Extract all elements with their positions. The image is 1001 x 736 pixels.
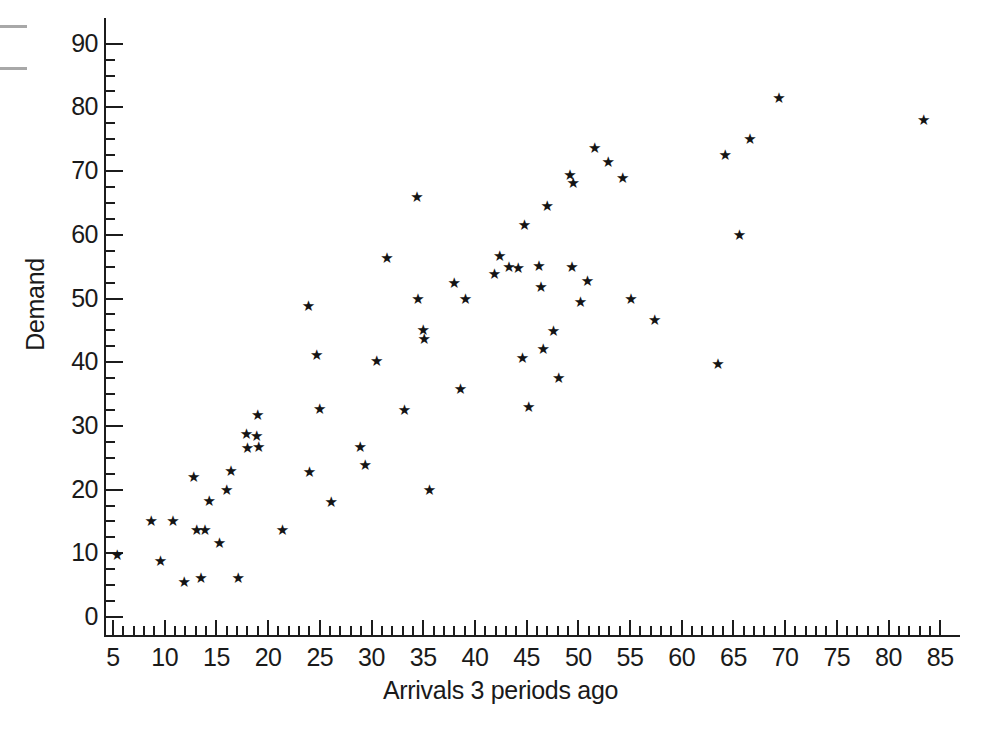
- x-axis-minor-tick: [246, 626, 248, 635]
- scatter-point: [397, 399, 413, 417]
- y-axis-minor-tick: [106, 473, 115, 475]
- scatter-point: [193, 567, 209, 585]
- x-axis-minor-tick: [308, 626, 310, 635]
- scatter-point: [565, 172, 581, 190]
- scatter-point: [521, 396, 537, 414]
- scatter-point: [572, 291, 588, 309]
- scatter-point: [710, 353, 726, 371]
- scatter-point: [369, 350, 385, 368]
- x-axis-minor-tick: [402, 626, 404, 635]
- x-axis-major-tick: [939, 620, 941, 635]
- x-axis-minor-tick: [298, 626, 300, 635]
- x-axis-minor-tick: [877, 626, 879, 635]
- scatter-point: [309, 344, 325, 362]
- y-axis-major-tick: [106, 234, 123, 236]
- scatter-plot-figure: 0102030405060708090 51015202530354045505…: [0, 0, 1001, 736]
- y-axis-major-tick: [106, 43, 123, 45]
- scatter-point: [410, 288, 426, 306]
- scatter-point: [510, 257, 526, 275]
- x-axis-minor-tick: [660, 626, 662, 635]
- x-axis-minor-tick: [846, 626, 848, 635]
- scatter-point: [323, 491, 339, 509]
- x-axis-major-tick: [577, 620, 579, 635]
- scatter-point: [153, 550, 169, 568]
- scatter-point: [165, 510, 181, 528]
- scan-artifact-mark: [0, 67, 27, 70]
- y-axis-major-tick: [106, 298, 123, 300]
- y-axis-minor-tick: [106, 457, 115, 459]
- scatter-point: [379, 247, 395, 265]
- scatter-point: [223, 460, 239, 478]
- scatter-point: [539, 195, 555, 213]
- y-axis-minor-tick: [106, 90, 115, 92]
- x-axis-minor-tick: [919, 626, 921, 635]
- x-axis-minor-tick: [195, 626, 197, 635]
- y-axis-minor-tick: [106, 250, 115, 252]
- x-axis-minor-tick: [360, 626, 362, 635]
- x-axis-minor-tick: [484, 626, 486, 635]
- x-axis-minor-tick: [929, 626, 931, 635]
- y-axis-major-tick: [106, 170, 123, 172]
- x-axis-minor-tick: [122, 626, 124, 635]
- x-axis-minor-tick: [257, 626, 259, 635]
- x-axis-minor-tick: [567, 626, 569, 635]
- scatter-point: [416, 328, 432, 346]
- x-axis-minor-tick: [557, 626, 559, 635]
- y-axis-minor-tick: [106, 568, 115, 570]
- y-axis-minor-tick: [106, 282, 115, 284]
- y-axis-title: Demand: [21, 225, 50, 385]
- x-axis-minor-tick: [391, 626, 393, 635]
- y-axis-line: [104, 18, 106, 637]
- scatter-point: [301, 461, 317, 479]
- x-axis-minor-tick: [722, 626, 724, 635]
- y-axis-minor-tick: [106, 154, 115, 156]
- y-axis-minor-tick: [106, 441, 115, 443]
- scatter-point: [201, 490, 217, 508]
- x-axis-major-tick: [888, 620, 890, 635]
- y-axis-minor-tick: [106, 377, 115, 379]
- scatter-point: [275, 519, 291, 537]
- scan-artifact-mark: [0, 25, 27, 28]
- scatter-point: [212, 532, 228, 550]
- scatter-point: [514, 347, 530, 365]
- y-axis-tick-label: 30: [40, 413, 98, 438]
- x-axis-minor-tick: [794, 626, 796, 635]
- x-axis-minor-tick: [670, 626, 672, 635]
- x-axis-minor-tick: [205, 626, 207, 635]
- x-axis-major-tick: [422, 620, 424, 635]
- x-axis-minor-tick: [515, 626, 517, 635]
- x-axis-minor-tick: [753, 626, 755, 635]
- x-axis-line: [104, 635, 960, 637]
- y-axis-minor-tick: [106, 218, 115, 220]
- y-axis-minor-tick: [106, 393, 115, 395]
- scatter-point: [312, 398, 328, 416]
- scatter-point: [732, 224, 748, 242]
- y-axis-minor-tick: [106, 138, 115, 140]
- scatter-point: [535, 338, 551, 356]
- x-axis-minor-tick: [381, 626, 383, 635]
- y-axis-tick-label: 0: [40, 604, 98, 629]
- x-axis-major-tick: [215, 620, 217, 635]
- scatter-point: [533, 276, 549, 294]
- x-axis-minor-tick: [805, 626, 807, 635]
- x-axis-minor-tick: [608, 626, 610, 635]
- x-axis-major-tick: [526, 620, 528, 635]
- x-axis-minor-tick: [815, 626, 817, 635]
- scatter-point: [916, 109, 932, 127]
- x-axis-minor-tick: [443, 626, 445, 635]
- y-axis-tick-label: 20: [40, 477, 98, 502]
- x-axis-minor-tick: [153, 626, 155, 635]
- scatter-point: [531, 255, 547, 273]
- x-axis-minor-tick: [412, 626, 414, 635]
- scatter-point: [600, 151, 616, 169]
- x-axis-minor-tick: [143, 626, 145, 635]
- x-axis-minor-tick: [329, 626, 331, 635]
- x-axis-major-tick: [319, 620, 321, 635]
- y-axis-minor-tick: [106, 59, 115, 61]
- x-axis-minor-tick: [898, 626, 900, 635]
- y-axis-tick-label: 80: [40, 94, 98, 119]
- scatter-point: [109, 544, 125, 562]
- x-axis-major-tick: [732, 620, 734, 635]
- scatter-point: [771, 87, 787, 105]
- x-axis-minor-tick: [236, 626, 238, 635]
